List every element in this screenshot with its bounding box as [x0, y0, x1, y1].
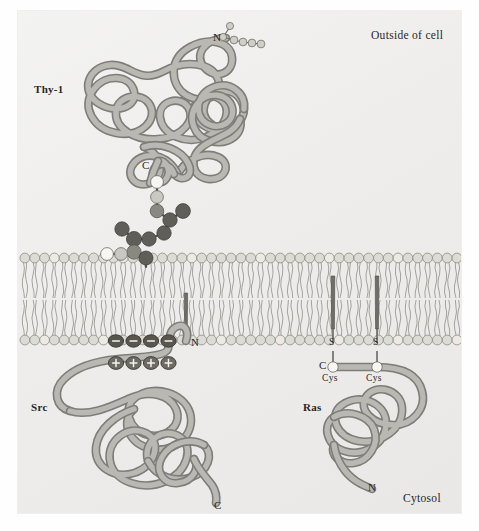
- thy1-c-terminus-label: C: [142, 159, 150, 171]
- thy1-label: Thy-1: [34, 83, 64, 95]
- src-n-terminus-label: N: [191, 336, 199, 348]
- sulfur-label-1: S: [329, 337, 335, 347]
- outside-of-cell-label: Outside of cell: [371, 29, 443, 41]
- cys-label-1: Cys: [322, 373, 338, 383]
- thy1-n-terminus-label: N: [213, 31, 221, 43]
- ras-c-terminus-label: C: [319, 359, 327, 371]
- diagram-panel: Outside of cell Cytosol Thy-1 N C Src N …: [18, 11, 461, 513]
- acyl-chain-2: [375, 276, 379, 329]
- cys-label-2: Cys: [366, 373, 382, 383]
- ras-ribbon: [327, 367, 423, 489]
- sulfur-label-2: S: [373, 337, 379, 347]
- acyl-chain-1: [331, 276, 335, 329]
- src-label: Src: [31, 401, 48, 413]
- cys-sphere-1: [328, 362, 338, 372]
- figure-root: Outside of cell Cytosol Thy-1 N C Src N …: [0, 0, 479, 531]
- ras-label: Ras: [303, 401, 322, 413]
- src-c-terminus-label: C: [214, 499, 222, 511]
- ras-n-terminus-label: N: [368, 481, 376, 493]
- ras-anchors: [331, 276, 379, 364]
- cytosol-label: Cytosol: [403, 492, 441, 504]
- ras-protein: [18, 11, 461, 513]
- cys-sphere-2: [372, 362, 382, 372]
